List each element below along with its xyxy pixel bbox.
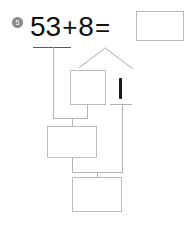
problem-number-badge: 5	[12, 17, 23, 28]
equals-operator: =	[94, 10, 111, 44]
equation: 53+8=	[30, 10, 111, 44]
bond-leg-left	[78, 47, 106, 68]
left-operand: 53	[30, 10, 61, 44]
underline-under-53	[33, 47, 71, 48]
connector-line-from-one	[122, 105, 123, 172]
connector-line-from-53	[53, 47, 54, 118]
rule-under-digit-one	[110, 104, 132, 105]
connector-horizontal-upper	[53, 118, 88, 119]
bond-left-part-box[interactable]	[70, 70, 106, 105]
connector-box1-down	[87, 105, 88, 118]
plus-operator: +	[61, 10, 78, 44]
intermediate-sum-box[interactable]	[47, 126, 97, 158]
connector-box2-down	[72, 158, 73, 172]
right-operand: 8	[78, 10, 94, 44]
final-answer-box[interactable]	[72, 177, 122, 212]
answer-input-box[interactable]	[136, 11, 184, 41]
worksheet-problem: 5 53+8=	[0, 0, 190, 226]
bond-right-part-digit-one	[119, 78, 122, 99]
bond-leg-right	[105, 48, 133, 69]
